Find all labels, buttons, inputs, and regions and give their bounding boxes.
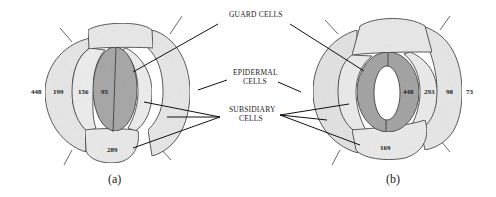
label-subsidiary-line1: SUBSIDIARY <box>229 105 276 114</box>
panel-a-caption: (a) <box>108 172 121 186</box>
leader-epidermal-b <box>278 82 301 92</box>
panel-b-caption: (b) <box>386 172 400 186</box>
center-labels: GUARD CELLS EPIDERMAL CELLS SUBSIDIARY C… <box>229 10 283 123</box>
panel-b-top-epidermal-cell <box>352 19 432 56</box>
panel-a-value-outer-left: 448 <box>31 88 42 96</box>
panel-b-value-mid-right: 98 <box>446 88 454 96</box>
panel-b-stomatal-pore <box>374 66 400 120</box>
panel-b-value-outer-right: 73 <box>466 88 474 96</box>
panel-a-value-inner-left: 156 <box>78 88 89 96</box>
panel-b-value-guard: 448 <box>403 88 414 96</box>
panel-a: 448 199 156 95 289 (a) <box>31 16 190 186</box>
label-subsidiary-line2: CELLS <box>239 114 263 123</box>
panel-a-value-guard: 95 <box>101 88 109 96</box>
panel-b-value-inner-right: 293 <box>424 88 435 96</box>
panel-a-value-bottom: 289 <box>107 146 118 154</box>
label-epidermal-line1: EPIDERMAL <box>233 68 278 77</box>
label-epidermal-line2: CELLS <box>243 77 267 86</box>
panel-a-value-mid-left: 199 <box>53 88 64 96</box>
panel-a-top-epidermal-cell <box>88 23 153 49</box>
stomata-diagram: 448 199 156 95 289 (a) 448 293 98 <box>0 0 496 197</box>
panel-b: 448 293 98 73 169 (b) <box>313 16 474 186</box>
panel-a-guard-cells <box>93 47 137 131</box>
leader-epidermal-a <box>198 80 227 90</box>
panel-b-value-bottom: 169 <box>380 144 391 152</box>
label-guard-cells: GUARD CELLS <box>229 10 283 19</box>
panel-a-outer-cell-right <box>148 30 190 156</box>
